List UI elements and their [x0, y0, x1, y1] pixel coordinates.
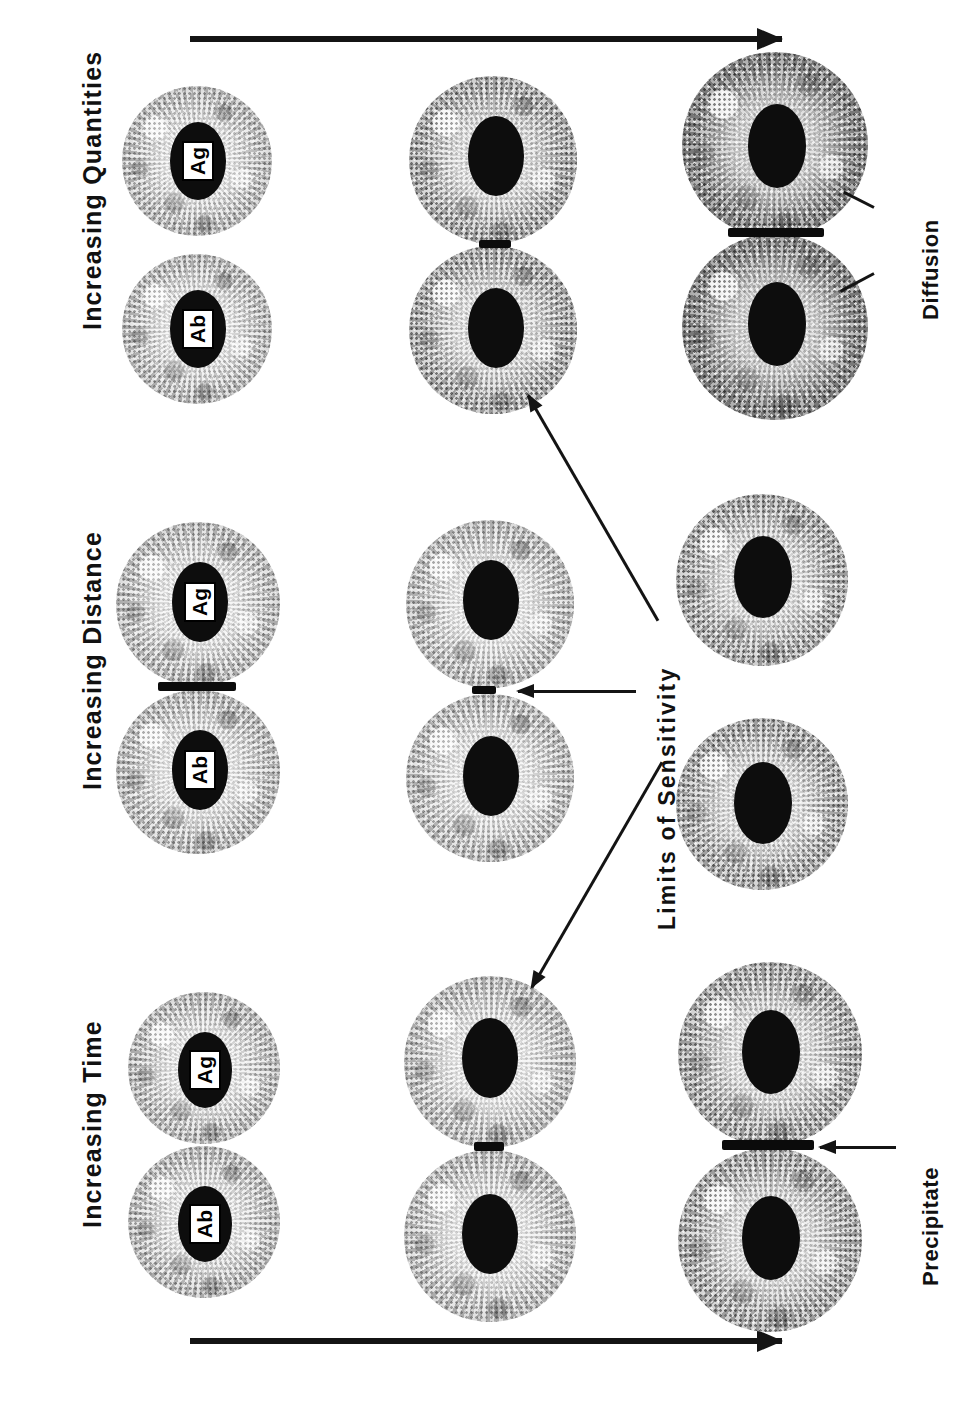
well-distance-row2-ab: [463, 736, 519, 816]
precipitate-time-row3: [722, 1140, 814, 1150]
well-time-row1-ag: Ag: [178, 1032, 232, 1108]
precipitate-distance-row2: [472, 686, 496, 694]
top-progression-arrow: [190, 36, 782, 42]
well-time-row3-ag: [742, 1010, 800, 1094]
well-distance-row3-ag: [734, 536, 792, 618]
well-time-row2-ag: [462, 1018, 518, 1098]
well-label-ab: Ab: [182, 309, 214, 349]
well-distance-row2-ag: [463, 560, 519, 640]
well-distance-row1-ag: Ag: [172, 562, 228, 642]
well-label-ag: Ag: [184, 582, 216, 622]
column-title-increasing-distance: Increasing Distance: [78, 531, 107, 790]
well-time-row1-ab: Ab: [178, 1186, 232, 1262]
column-title-increasing-time: Increasing Time: [78, 1020, 107, 1228]
well-distance-row3-ab: [734, 762, 792, 844]
precipitate-quantities-row3: [728, 228, 824, 237]
immunodiffusion-figure: Increasing Quantities Increasing Distanc…: [0, 0, 956, 1415]
bottom-progression-arrow: [190, 1338, 782, 1344]
precipitate-time-row2: [474, 1142, 504, 1151]
annotation-label-diffusion: Diffusion: [918, 219, 944, 320]
well-time-row2-ab: [462, 1194, 518, 1274]
well-quantities-row1-ab: Ab: [170, 290, 226, 368]
well-quantities-row2-ab: [468, 288, 524, 368]
well-quantities-row2-ag: [468, 116, 524, 196]
well-distance-row1-ab: Ab: [172, 730, 228, 810]
precipitate-distance-row1: [158, 682, 236, 691]
annotation-label-precipitate: Precipitate: [918, 1167, 944, 1286]
column-title-increasing-quantities: Increasing Quantities: [78, 51, 107, 330]
well-label-ag: Ag: [189, 1050, 221, 1090]
precipitate-quantities-row2: [479, 240, 511, 248]
precipitate-annotation-arrow: [820, 1146, 896, 1149]
well-quantities-row1-ag: Ag: [170, 122, 226, 200]
well-quantities-row3-ab: [748, 282, 806, 366]
well-label-ab: Ab: [184, 750, 216, 790]
well-label-ab: Ab: [189, 1204, 221, 1244]
annotation-label-limits-of-sensitivity: Limits of Sensitivity: [654, 667, 681, 930]
well-quantities-row3-ag: [748, 104, 806, 188]
well-time-row3-ab: [742, 1196, 800, 1280]
limits-arrow-middle: [518, 690, 636, 693]
well-label-ag: Ag: [182, 141, 214, 181]
